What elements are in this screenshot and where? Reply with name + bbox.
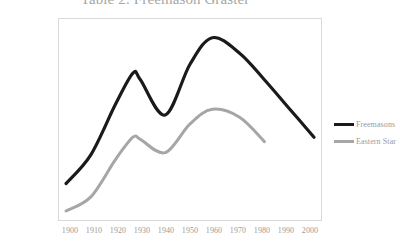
x-axis-tick-label: 1910 bbox=[82, 226, 106, 235]
x-axis-tick-label: 1930 bbox=[130, 226, 154, 235]
x-axis: 1900 1910 1920 1930 1940 1950 1960 1970 … bbox=[58, 226, 322, 242]
x-axis-tick-label: 1900 bbox=[58, 226, 82, 235]
line-series-freemasons bbox=[66, 37, 314, 183]
x-axis-tick-label: 1940 bbox=[154, 226, 178, 235]
y-axis: 4 500 000 4 000 000 3 500 000 3 000 000 … bbox=[0, 0, 56, 249]
line-series-eastern-star bbox=[66, 109, 264, 211]
x-axis-tick-label: 1950 bbox=[178, 226, 202, 235]
plot-lines bbox=[59, 19, 321, 220]
x-axis-tick-label: 2000 bbox=[298, 226, 322, 235]
chart-legend: Freemasons Eastern Star bbox=[334, 117, 407, 151]
x-axis-tick-label: 1990 bbox=[274, 226, 298, 235]
legend-color-swatch bbox=[334, 140, 354, 143]
x-axis-tick-label: 1970 bbox=[226, 226, 250, 235]
legend-item-eastern-star: Eastern Star bbox=[334, 134, 407, 148]
chart-container: Table 2: Freemason Graster 4 500 000 4 0… bbox=[0, 0, 407, 249]
legend-color-swatch bbox=[334, 123, 354, 126]
x-axis-tick-label: 1960 bbox=[202, 226, 226, 235]
legend-item-freemasons: Freemasons bbox=[334, 117, 407, 131]
x-axis-tick-label: 1920 bbox=[106, 226, 130, 235]
legend-item-label: Freemasons bbox=[356, 120, 395, 129]
x-axis-tick-label: 1980 bbox=[250, 226, 274, 235]
plot-area bbox=[58, 18, 322, 221]
legend-item-label: Eastern Star bbox=[356, 137, 396, 146]
